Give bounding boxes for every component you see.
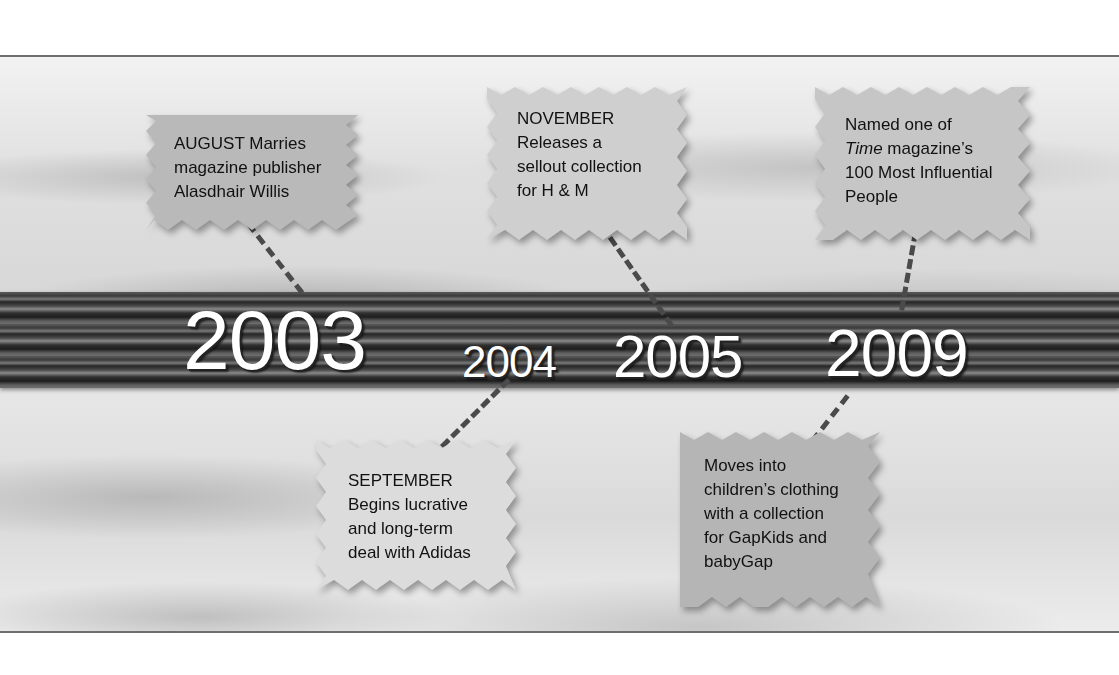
event-line: SEPTEMBER — [348, 469, 516, 493]
event-card-2003-august: AUGUST Marries magazine publisher Alasdh… — [146, 115, 358, 230]
event-line: AUGUST Marries — [174, 132, 358, 156]
event-line: and long-term — [348, 517, 516, 541]
event-line: magazine publisher — [174, 156, 358, 180]
event-line-italic-time: Time magazine’s — [845, 137, 1030, 161]
event-card-2004-september: SEPTEMBER Begins lucrative and long-term… — [316, 440, 516, 590]
year-2004: 2004 — [462, 340, 556, 384]
event-card-2009-gap: Moves into children’s clothing with a co… — [680, 432, 880, 607]
italic-time: Time — [845, 139, 883, 158]
event-line: 100 Most Influential — [845, 161, 1030, 185]
event-line: Moves into — [704, 454, 880, 478]
event-line: for H & M — [517, 179, 687, 203]
event-line: Begins lucrative — [348, 493, 516, 517]
event-line: Named one of — [845, 113, 1030, 137]
event-line: sellout collection — [517, 155, 687, 179]
event-line-rest: magazine’s — [883, 139, 973, 158]
event-line: with a collection — [704, 502, 880, 526]
event-line: Alasdhair Willis — [174, 180, 358, 204]
event-card-2005-november: NOVEMBER Releases a sellout collection f… — [487, 87, 687, 240]
event-card-2009-time: Named one of Time magazine’s 100 Most In… — [815, 87, 1030, 240]
event-line: People — [845, 185, 1030, 209]
event-line: Releases a — [517, 131, 687, 155]
event-line: deal with Adidas — [348, 541, 516, 565]
event-line: for GapKids and — [704, 526, 880, 550]
year-2003: 2003 — [183, 298, 366, 382]
event-line: NOVEMBER — [517, 107, 687, 131]
event-line: babyGap — [704, 550, 880, 574]
event-line: children’s clothing — [704, 478, 880, 502]
year-2005: 2005 — [613, 327, 742, 387]
year-2009: 2009 — [825, 320, 968, 386]
